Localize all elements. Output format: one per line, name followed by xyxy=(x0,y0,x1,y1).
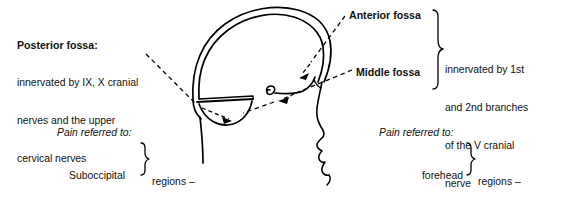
right-pain-heading: Pain referred to: xyxy=(379,127,454,140)
left-pain-item-2: upper cervical xyxy=(69,208,134,209)
right-pain-regions: regions – bilateral or ipsilateral xyxy=(478,151,527,209)
right-pain-item-2: temporal xyxy=(391,208,463,209)
left-pain-regions: regions – bilateral or ipsilateral xyxy=(152,151,201,209)
middle-fossa-leader-icon xyxy=(243,70,352,113)
posterior-fossa-line-1: innervated by IX, X cranial xyxy=(17,77,138,90)
right-pain-item-1: forehead xyxy=(391,170,463,183)
right-pain-items: forehead temporal xyxy=(391,145,463,209)
head-lateral-profile-icon xyxy=(193,7,331,185)
trigeminal-brace-icon xyxy=(433,10,443,89)
cranial-fossae-figure: Posterior fossa: innervated by IX, X cra… xyxy=(0,0,564,209)
trigeminal-line-2: and 2nd branches xyxy=(445,102,528,115)
middle-fossa-label: Middle fossa xyxy=(356,66,420,79)
left-pain-brace-icon xyxy=(141,143,149,175)
posterior-fossa-heading: Posterior fossa: xyxy=(17,39,138,52)
left-pain-items: Suboccipital upper cervical xyxy=(69,145,134,209)
posterior-fossa-leader-icon xyxy=(146,54,232,124)
left-pain-heading: Pain referred to: xyxy=(57,127,132,140)
trigeminal-line-1: innervated by 1st xyxy=(445,64,528,77)
right-regions-line-1: regions – xyxy=(478,176,527,189)
left-pain-item-1: Suboccipital xyxy=(69,170,134,183)
left-regions-line-1: regions – xyxy=(152,176,201,189)
posterior-fossa-line-2: nerves and the upper xyxy=(17,115,138,128)
anterior-fossa-label: Anterior fossa xyxy=(349,9,421,22)
